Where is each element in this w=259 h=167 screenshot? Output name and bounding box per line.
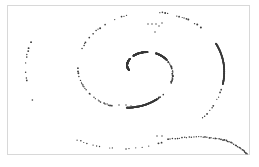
spiral-scatter-plot	[0, 0, 259, 167]
figure-root	[0, 0, 259, 167]
